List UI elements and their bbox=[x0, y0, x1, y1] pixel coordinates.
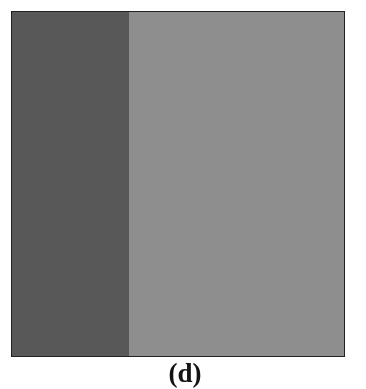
region-fallback-shading bbox=[12, 12, 344, 356]
figure-panel: (d) bbox=[0, 0, 366, 389]
light-region-fallback bbox=[129, 12, 344, 356]
figure-caption: (d) bbox=[0, 358, 366, 388]
noisy-image-panel bbox=[11, 11, 345, 357]
figure-caption-label: (d) bbox=[169, 358, 202, 388]
